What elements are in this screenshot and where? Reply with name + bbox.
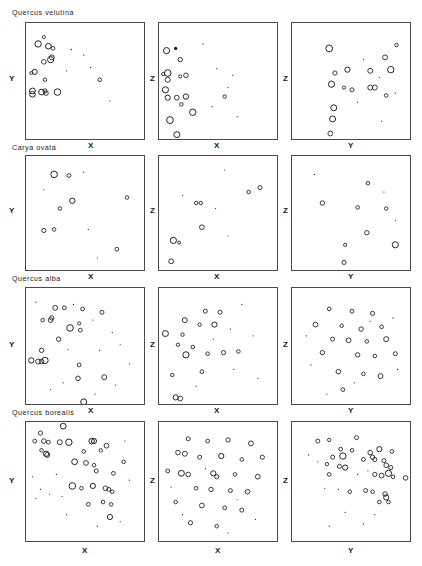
scatter-point: [56, 474, 57, 475]
scatter-point: [257, 378, 258, 379]
scatter-point: [365, 340, 369, 344]
scatter-panel-r1c3[interactable]: [291, 22, 411, 140]
scatter-point: [182, 318, 187, 323]
scatter-point: [379, 77, 380, 78]
scatter-point: [350, 88, 354, 92]
scatter-point: [378, 500, 382, 504]
scatter-point: [258, 186, 262, 190]
axis-label-x-r2c2: X: [214, 272, 219, 281]
scatter-point: [255, 519, 256, 520]
scatter-point: [39, 348, 43, 352]
scatter-point: [109, 503, 113, 507]
axis-label-x-r4c2: X: [215, 546, 220, 555]
scatter-panel-r4c2[interactable]: [158, 421, 278, 542]
scatter-point: [129, 480, 130, 481]
scatter-point: [314, 174, 315, 175]
scatter-point: [327, 473, 331, 477]
scatter-point: [328, 131, 333, 136]
scatter-panel-r3c3[interactable]: [291, 287, 411, 405]
scatter-point: [49, 55, 54, 60]
scatter-point: [392, 242, 398, 248]
scatter-canvas-r4c1: [26, 422, 145, 542]
axis-label-x-r3c2: X: [214, 406, 219, 415]
scatter-point: [336, 369, 341, 374]
scatter-point: [81, 399, 87, 405]
scatter-point: [42, 439, 47, 444]
scatter-point: [186, 472, 191, 477]
scatter-point: [99, 350, 100, 351]
scatter-canvas-r1c2: [159, 23, 278, 140]
scatter-point: [390, 450, 394, 454]
scatter-point: [56, 337, 60, 341]
scatter-point: [343, 465, 348, 470]
scatter-panel-r4c3[interactable]: [291, 421, 411, 542]
scatter-point: [331, 337, 335, 341]
scatter-point: [331, 105, 337, 111]
scatter-point: [174, 95, 179, 100]
axis-label-x-r1c1: X: [88, 141, 93, 150]
scatter-point: [228, 87, 229, 88]
scatter-point: [326, 393, 327, 394]
scatter-point: [125, 196, 129, 200]
scatter-point: [46, 440, 50, 444]
scatter-point: [384, 337, 389, 342]
scatter-point: [371, 490, 375, 494]
scatter-point: [391, 475, 395, 479]
scatter-panel-r1c2[interactable]: [158, 22, 278, 140]
scatter-point: [245, 489, 250, 494]
scatter-point: [42, 228, 46, 232]
scatter-panel-r3c1[interactable]: [25, 287, 145, 405]
figure-scatterplot-matrix: Quercus velutina Y X Z X Z Y Carya ovata…: [0, 0, 422, 566]
species-label-row-2: Carya ovata: [12, 143, 56, 152]
scatter-point: [362, 372, 366, 376]
scatter-panel-r2c1[interactable]: [25, 155, 145, 271]
scatter-point: [206, 439, 210, 443]
species-label-row-3: Quercus alba: [12, 274, 61, 283]
scatter-point: [212, 106, 213, 107]
scatter-point: [226, 438, 230, 442]
scatter-point: [62, 306, 66, 310]
scatter-point: [83, 54, 84, 55]
scatter-point: [92, 463, 96, 467]
scatter-point: [77, 363, 81, 367]
scatter-point: [179, 75, 182, 78]
scatter-panel-r4c1[interactable]: [25, 421, 145, 542]
scatter-point: [178, 57, 182, 61]
axis-label-x-r2c3: Y: [348, 272, 353, 281]
scatter-point: [170, 237, 176, 243]
scatter-point: [345, 67, 350, 72]
axis-label-x-r1c3: Y: [348, 141, 353, 150]
axis-label-y-r1c1: Y: [9, 74, 14, 83]
scatter-panel-r1c1[interactable]: [25, 22, 145, 140]
scatter-point: [76, 376, 81, 381]
scatter-point: [215, 475, 219, 479]
scatter-point: [110, 490, 114, 494]
scatter-point: [382, 459, 386, 463]
scatter-canvas-r2c1: [26, 156, 145, 271]
scatter-point: [174, 47, 177, 50]
axis-label-x-r4c1: X: [82, 546, 87, 555]
scatter-point: [350, 449, 354, 453]
scatter-point: [328, 438, 331, 441]
scatter-point: [49, 493, 50, 494]
scatter-point: [120, 521, 121, 522]
scatter-point: [241, 304, 242, 305]
scatter-point: [240, 508, 244, 512]
scatter-point: [51, 171, 58, 178]
scatter-point: [380, 325, 384, 329]
scatter-point: [186, 437, 190, 441]
scatter-panel-r2c2[interactable]: [158, 155, 278, 271]
scatter-point: [340, 324, 343, 327]
scatter-point: [67, 325, 74, 332]
axis-label-y-r1c3: Z: [283, 74, 288, 83]
scatter-point: [35, 41, 41, 47]
scatter-point: [101, 500, 105, 504]
scatter-point: [359, 327, 363, 331]
scatter-point: [237, 350, 241, 354]
scatter-point: [199, 201, 202, 204]
scatter-point: [174, 500, 178, 504]
scatter-panel-r2c3[interactable]: [291, 155, 411, 271]
scatter-point: [190, 109, 196, 115]
scatter-point: [102, 375, 107, 380]
scatter-panel-r3c2[interactable]: [158, 287, 278, 405]
